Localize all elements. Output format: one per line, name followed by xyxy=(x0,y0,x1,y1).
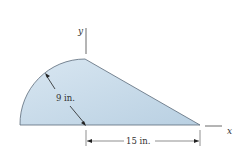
arrowhead-icon xyxy=(194,139,199,143)
arrowhead-icon xyxy=(87,139,92,143)
area-diagram: y x 9 in. 15 in. xyxy=(0,0,238,155)
x-axis-label: x xyxy=(227,126,232,136)
y-axis-label: y xyxy=(77,26,84,36)
base-label: 15 in. xyxy=(126,136,150,146)
composite-area-shape xyxy=(20,59,200,125)
radius-label: 9 in. xyxy=(56,93,75,103)
